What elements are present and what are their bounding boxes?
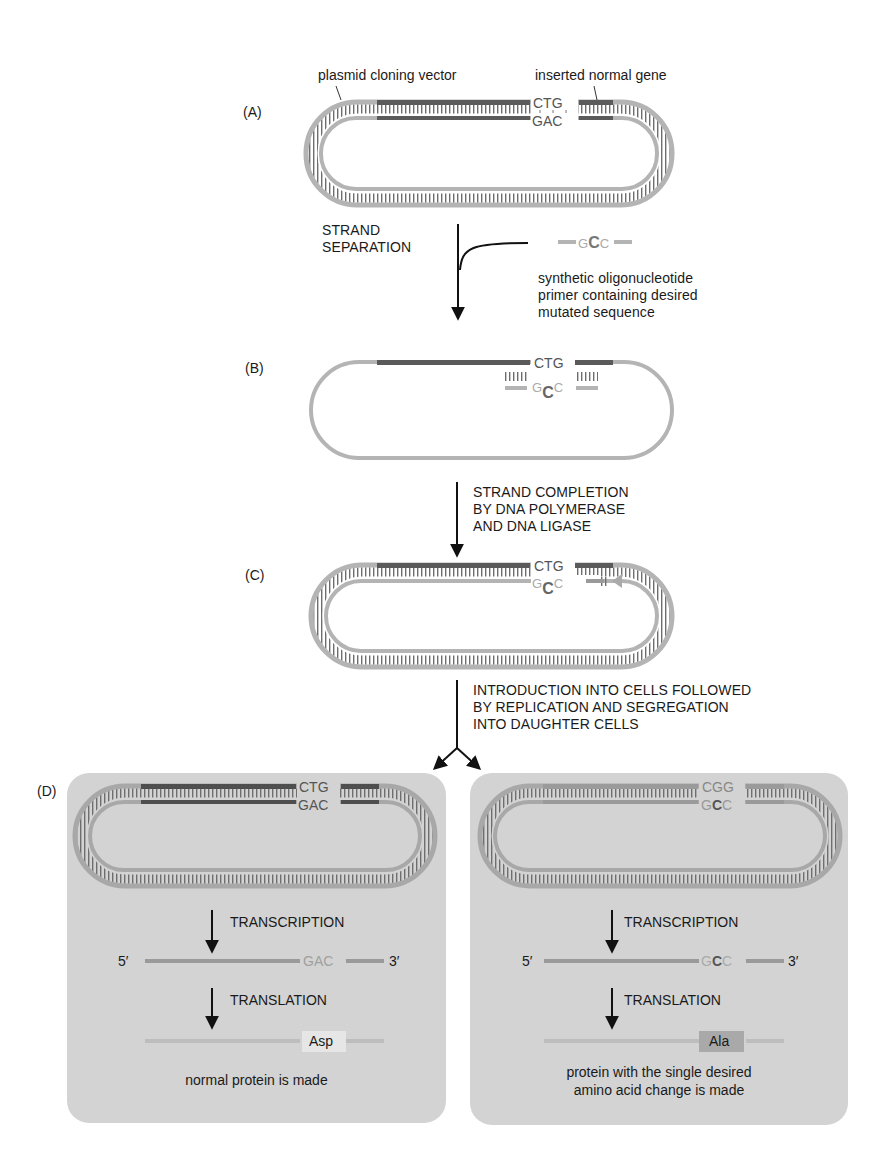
caption-normal: normal protein is made xyxy=(67,1071,446,1089)
amino-acid-normal: Asp xyxy=(309,1033,333,1050)
label-transcription-mutant: TRANSCRIPTION xyxy=(624,914,738,931)
callout-gene: inserted normal gene xyxy=(535,67,667,84)
seq-c-top: CTG xyxy=(534,558,564,574)
label-3prime-normal: 3′ xyxy=(389,953,399,970)
label-5prime-mutant: 5′ xyxy=(522,953,532,970)
seq-c-primer: GCC xyxy=(532,576,563,597)
leader-gene xyxy=(594,86,597,100)
panel-label-a: (A) xyxy=(243,104,262,121)
step-completion: STRAND COMPLETION BY DNA POLYMERASE AND … xyxy=(473,484,629,535)
curve-separation xyxy=(460,243,528,270)
step-introduction: INTRODUCTION INTO CELLS FOLLOWED BY REPL… xyxy=(473,682,751,733)
amino-acid-mutant: Ala xyxy=(709,1033,729,1050)
panel-label-b: (B) xyxy=(245,360,264,377)
callout-primer: synthetic oligonucleotide primer contain… xyxy=(538,270,698,321)
svg-text:CGG: CGG xyxy=(702,779,734,795)
seq-b-primer: GCC xyxy=(532,380,563,401)
leader-vector xyxy=(336,86,341,100)
plasmid-c xyxy=(311,557,672,667)
outcome-normal-panel: CTG GAC TRANSCRIPTION 5′ GAC 3′ TRANSLAT… xyxy=(67,773,446,1123)
label-translation-mutant: TRANSLATION xyxy=(624,992,721,1009)
arrow-split-right xyxy=(457,748,479,768)
panel-label-c: (C) xyxy=(245,567,264,584)
label-transcription-normal: TRANSCRIPTION xyxy=(230,914,344,931)
arrow-split-left xyxy=(435,748,457,768)
outcome-mutant-panel: CGG GCC TRANSCRIPTION 5′ GCC 3′ TRANSLAT… xyxy=(470,773,848,1125)
svg-text:CTG: CTG xyxy=(299,779,329,795)
codon-normal: GAC xyxy=(303,953,333,970)
step-separation: STRAND SEPARATION xyxy=(322,222,411,256)
plasmid-a xyxy=(306,95,672,205)
label-3prime-mutant: 3′ xyxy=(788,953,798,970)
svg-text:GCC: GCC xyxy=(701,797,732,813)
label-translation-normal: TRANSLATION xyxy=(230,992,327,1009)
svg-text:GAC: GAC xyxy=(298,797,328,813)
seq-a-bottom: GAC xyxy=(532,113,562,129)
label-5prime-normal: 5′ xyxy=(118,953,128,970)
codon-mutant: GCC xyxy=(701,953,732,970)
caption-mutant: protein with the single desired amino ac… xyxy=(470,1063,848,1099)
callout-vector: plasmid cloning vector xyxy=(318,67,457,84)
panel-label-d: (D) xyxy=(37,783,56,800)
seq-a-top: CTG xyxy=(533,95,563,111)
primer-seq: GCC xyxy=(578,234,609,251)
seq-b-top: CTG xyxy=(534,355,564,371)
plasmid-b xyxy=(311,355,672,458)
